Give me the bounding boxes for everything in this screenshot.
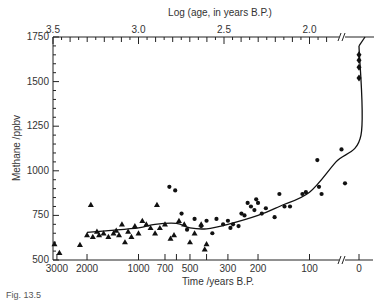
circle-marker xyxy=(317,185,321,189)
x-tick-label: 300 xyxy=(220,263,237,274)
y-tick-label: 750 xyxy=(32,209,49,220)
methane-chart: Log (age, in years B.P.) Time /years B.P… xyxy=(0,0,392,301)
triangle-marker xyxy=(187,239,193,244)
circle-marker xyxy=(167,185,171,189)
x-tick-label: 1000 xyxy=(127,263,150,274)
triangle-marker xyxy=(176,218,182,223)
bottom-axis-title: Time /years B.P. xyxy=(182,276,254,287)
x-tick-label: 3000 xyxy=(46,263,69,274)
circle-marker xyxy=(214,217,218,221)
y-axis-title: Methane /ppbv xyxy=(11,115,22,181)
circle-marker xyxy=(242,213,246,217)
circle-marker xyxy=(179,212,183,216)
triangle-marker xyxy=(152,230,158,235)
triangle-marker xyxy=(128,234,134,239)
x-tick-label: 100 xyxy=(301,263,318,274)
circle-marker xyxy=(192,217,196,221)
circle-marker xyxy=(277,192,281,196)
figure-caption: Fig. 13.5 xyxy=(6,290,41,300)
circle-marker xyxy=(199,224,203,228)
y-tick-label: 1500 xyxy=(27,76,50,87)
circle-marker xyxy=(246,201,250,205)
triangle-marker xyxy=(157,225,163,230)
y-tick-label: 1250 xyxy=(27,120,50,131)
circle-marker xyxy=(228,226,232,230)
triangle-marker xyxy=(51,241,57,246)
circle-marker xyxy=(254,197,258,201)
axes: 5007501000125015001750300020001000700500… xyxy=(27,24,374,274)
x-tick-label: 2000 xyxy=(76,263,99,274)
triangle-marker xyxy=(192,230,198,235)
triangle-marker xyxy=(88,202,94,207)
triangle-marker xyxy=(116,232,122,237)
x2-tick-label: 3.5 xyxy=(46,24,60,35)
x-tick-label: 200 xyxy=(250,263,267,274)
triangle-marker xyxy=(105,234,111,239)
triangle-marker xyxy=(136,230,142,235)
x-tick-label: 0 xyxy=(356,263,362,274)
circle-marker xyxy=(210,231,214,235)
triangle-marker xyxy=(204,241,210,246)
circle-marker xyxy=(319,192,323,196)
triangle-marker xyxy=(132,223,138,228)
y-tick-label: 1000 xyxy=(27,165,50,176)
circle-marker xyxy=(226,219,230,223)
circle-marker xyxy=(204,219,208,223)
circle-marker xyxy=(288,204,292,208)
circle-marker xyxy=(256,201,260,205)
diamond-marker xyxy=(357,57,362,64)
circle-marker xyxy=(304,190,308,194)
x2-tick-label: 3.0 xyxy=(132,24,146,35)
x2-tick-label: 2.0 xyxy=(303,24,317,35)
triangle-marker xyxy=(122,239,128,244)
circle-marker xyxy=(231,222,235,226)
x-tick-label: 700 xyxy=(157,263,174,274)
triangle-marker xyxy=(56,250,62,255)
triangle-marker xyxy=(171,232,177,237)
triangle-marker xyxy=(139,218,145,223)
circle-marker xyxy=(272,215,276,219)
fit-curve xyxy=(87,37,365,232)
circle-marker xyxy=(249,204,253,208)
circle-marker xyxy=(185,228,189,232)
circle-marker xyxy=(260,212,264,216)
x-tick-label: 500 xyxy=(182,263,199,274)
triangle-marker xyxy=(181,221,187,226)
x2-tick-label: 2.5 xyxy=(217,24,231,35)
circle-marker xyxy=(282,204,286,208)
circle-marker xyxy=(252,208,256,212)
circle-marker xyxy=(173,188,177,192)
triangle-marker xyxy=(90,234,96,239)
top-axis-title: Log (age, in years B.P.) xyxy=(168,7,272,18)
circle-marker xyxy=(264,206,268,210)
circle-marker xyxy=(236,224,240,228)
triangle-marker xyxy=(202,246,208,251)
triangle-marker xyxy=(154,202,160,207)
data-points xyxy=(51,51,361,255)
circle-marker xyxy=(221,222,225,226)
circle-marker xyxy=(339,147,343,151)
circle-marker xyxy=(315,158,319,162)
triangle-marker xyxy=(77,242,83,247)
circle-marker xyxy=(343,181,347,185)
triangle-marker xyxy=(119,221,125,226)
